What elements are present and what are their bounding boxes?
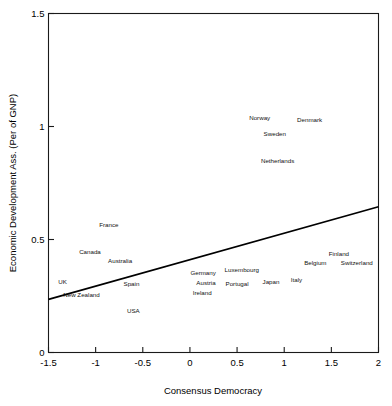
- y-tick-label: 1.5: [31, 8, 44, 19]
- y-tick-label: 1: [39, 121, 44, 132]
- data-point-label: Finland: [329, 250, 350, 257]
- data-point-label: New Zealand: [63, 291, 100, 298]
- data-point-label: Spain: [124, 280, 140, 287]
- data-point-label: Italy: [291, 276, 303, 283]
- x-tick-label: 0: [187, 357, 192, 368]
- data-point-label: Norway: [249, 114, 271, 121]
- data-point-label: UK: [58, 278, 67, 285]
- data-point-label: Switzerland: [341, 259, 374, 266]
- data-point-label: Portugal: [226, 280, 249, 287]
- data-point-label: Australia: [108, 257, 133, 264]
- data-point-label: France: [99, 221, 119, 228]
- data-point-label: USA: [127, 307, 141, 314]
- y-axis-ticks: [49, 14, 55, 353]
- y-tick-label: 0: [39, 347, 44, 358]
- data-point-label: Austria: [196, 279, 216, 286]
- y-axis-tick-labels: 00.511.5: [31, 8, 44, 358]
- plot-frame: [49, 14, 379, 353]
- x-axis-tick-labels: -1.5-1-0.500.511.52: [40, 357, 381, 368]
- x-axis-ticks: [49, 347, 379, 353]
- y-axis-title: Economic Development Ass. (Per of GNP): [7, 94, 18, 272]
- data-point-label: Canada: [79, 248, 101, 255]
- data-point-label: Luxembourg: [225, 266, 260, 273]
- chart-canvas: -1.5-1-0.500.511.52 00.511.5 NorwayDenma…: [0, 0, 392, 406]
- x-axis-title: Consensus Democracy: [164, 385, 262, 396]
- x-tick-label: -1.5: [40, 357, 56, 368]
- x-tick-label: 1: [282, 357, 287, 368]
- data-point-label: Sweden: [264, 130, 287, 137]
- x-tick-label: -1: [91, 357, 99, 368]
- x-tick-label: 0.5: [230, 357, 243, 368]
- data-point-label: Belgium: [304, 259, 326, 266]
- data-point-label: Ireland: [193, 289, 212, 296]
- data-point-label: Netherlands: [261, 157, 294, 164]
- x-tick-label: 1.5: [325, 357, 338, 368]
- x-tick-label: -0.5: [135, 357, 151, 368]
- data-point-label: Japan: [263, 278, 280, 285]
- y-tick-label: 0.5: [31, 234, 44, 245]
- data-point-label: Germany: [190, 269, 216, 276]
- data-point-label: Denmark: [297, 116, 323, 123]
- x-tick-label: 2: [376, 357, 381, 368]
- scatter-chart: -1.5-1-0.500.511.52 00.511.5 NorwayDenma…: [0, 0, 392, 406]
